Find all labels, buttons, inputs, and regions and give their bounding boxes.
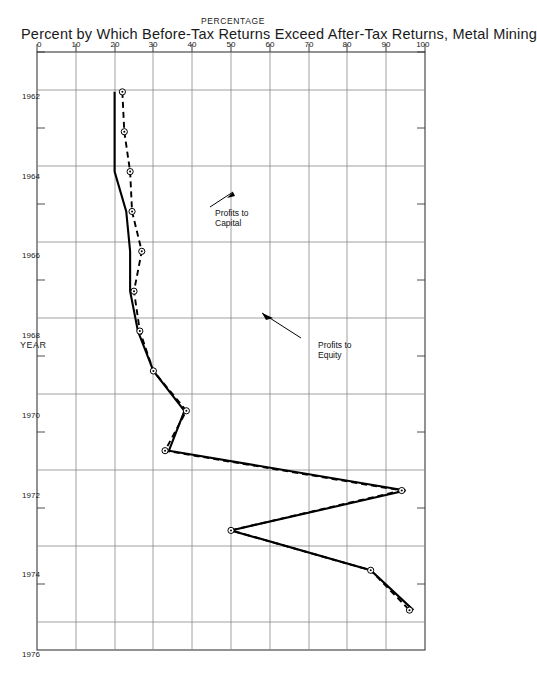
data-point-center (131, 210, 133, 212)
annotation-equity-line2: Equity (318, 350, 352, 360)
data-point-center (133, 290, 135, 292)
x-axis-tick-label: 1974 (22, 570, 40, 579)
y-axis-tick-label: 80 (343, 40, 352, 49)
annotation-capital-line2: Capital (215, 218, 249, 228)
x-axis-tick-label: 1964 (22, 172, 40, 181)
data-point-center (408, 609, 410, 611)
data-point-center (141, 250, 143, 252)
y-axis-tick-label: 30 (149, 40, 158, 49)
data-point-center (401, 490, 403, 492)
x-axis-tick-label: 1976 (22, 650, 40, 659)
y-axis-tick-label: 20 (110, 40, 119, 49)
x-axis-tick-label: 1970 (22, 411, 40, 420)
y-axis-tick-label: 60 (265, 40, 274, 49)
data-point-center (123, 131, 125, 133)
y-axis-tick-label: 10 (71, 40, 80, 49)
data-point-center (185, 410, 187, 412)
data-point-center (121, 91, 123, 93)
annotation-profits-to-equity: Profits to Equity (318, 340, 352, 360)
data-point-center (152, 370, 154, 372)
annotation-profits-to-capital: Profits to Capital (215, 208, 249, 228)
data-point-center (164, 450, 166, 452)
x-axis-tick-label: 1968 (22, 331, 40, 340)
y-axis-tick-label: 90 (382, 40, 391, 49)
x-axis-tick-label: 1962 (22, 92, 40, 101)
y-axis-title: PERCENTAGE (201, 16, 265, 26)
x-axis-tick-label: 1966 (22, 251, 40, 260)
y-axis-tick-label: 70 (304, 40, 313, 49)
y-axis-tick-label: 0 (37, 40, 41, 49)
data-point-center (230, 529, 232, 531)
data-point-center (370, 569, 372, 571)
annotation-equity-line1: Profits to (318, 340, 352, 350)
y-axis-tick-label: 40 (188, 40, 197, 49)
x-axis-tick-label: 1972 (22, 491, 40, 500)
annotation-capital-line1: Profits to (215, 208, 249, 218)
y-axis-tick-label: 100 (416, 40, 429, 49)
data-point-center (129, 171, 131, 173)
data-point-center (139, 330, 141, 332)
x-axis-title: YEAR (20, 340, 47, 350)
y-axis-tick-label: 50 (227, 40, 236, 49)
page-title: Percent by Which Before-Tax Returns Exce… (21, 26, 537, 42)
